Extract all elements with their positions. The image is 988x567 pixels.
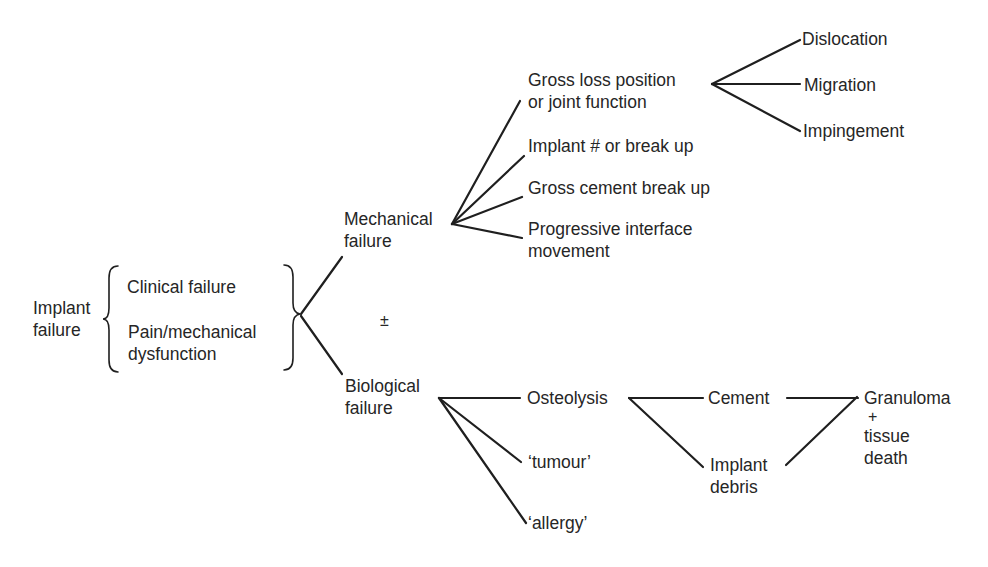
death-label: death bbox=[864, 447, 951, 469]
root-line-2: failure bbox=[33, 319, 90, 341]
cement-break-label: Gross cement break up bbox=[528, 177, 710, 199]
implant-debris-line-1: Implant bbox=[710, 454, 767, 476]
allergy: ‘allergy’ bbox=[528, 512, 587, 534]
criterion-pain-dysfunction: Pain/mechanical dysfunction bbox=[128, 321, 256, 365]
root-line-1: Implant bbox=[33, 297, 90, 319]
gross-loss-line-2: or joint function bbox=[528, 91, 676, 113]
granuloma-tissue-death: Granuloma + tissue death bbox=[864, 387, 951, 469]
root-implant-failure: Implant failure bbox=[33, 297, 90, 341]
mechanical-line-1: Mechanical bbox=[344, 208, 433, 230]
criterion-label-line-2: dysfunction bbox=[128, 343, 256, 365]
progressive-line-2: movement bbox=[528, 240, 692, 262]
impingement: Impingement bbox=[803, 120, 904, 142]
allergy-label: ‘allergy’ bbox=[528, 512, 587, 534]
implant-debris-line-2: debris bbox=[710, 476, 767, 498]
progressive-line-1: Progressive interface bbox=[528, 218, 692, 240]
tissue-label: tissue bbox=[864, 425, 951, 447]
progressive-interface-movement: Progressive interface movement bbox=[528, 218, 692, 262]
plus-symbol: + bbox=[868, 409, 951, 425]
implant-break-label: Implant # or break up bbox=[528, 135, 693, 157]
biological-line-1: Biological bbox=[345, 375, 420, 397]
criterion-clinical-failure: Clinical failure bbox=[127, 276, 236, 298]
right-brace bbox=[284, 265, 300, 370]
osteolysis-label: Osteolysis bbox=[527, 387, 608, 409]
migration: Migration bbox=[804, 74, 876, 96]
implant-failure-diagram: Implant failure Clinical failure Pain/me… bbox=[0, 0, 988, 567]
granuloma-label: Granuloma bbox=[864, 387, 951, 409]
tumour-label: ‘tumour’ bbox=[528, 451, 591, 473]
left-brace bbox=[103, 266, 118, 372]
criterion-label: Clinical failure bbox=[127, 276, 236, 298]
implant-break-up: Implant # or break up bbox=[528, 135, 693, 157]
mechanical-failure: Mechanical failure bbox=[344, 208, 433, 252]
osteolysis: Osteolysis bbox=[527, 387, 608, 409]
cement: Cement bbox=[708, 387, 769, 409]
criterion-label-line-1: Pain/mechanical bbox=[128, 321, 256, 343]
cement-label: Cement bbox=[708, 387, 769, 409]
mechanical-line-2: failure bbox=[344, 230, 433, 252]
gross-loss-line-1: Gross loss position bbox=[528, 69, 676, 91]
biological-failure: Biological failure bbox=[345, 375, 420, 419]
gross-cement-break-up: Gross cement break up bbox=[528, 177, 710, 199]
implant-debris: Implant debris bbox=[710, 454, 767, 498]
tumour: ‘tumour’ bbox=[528, 451, 591, 473]
gross-loss-position: Gross loss position or joint function bbox=[528, 69, 676, 113]
plus-minus-symbol: ± bbox=[380, 310, 389, 332]
dislocation: Dislocation bbox=[802, 28, 888, 50]
biological-line-2: failure bbox=[345, 397, 420, 419]
